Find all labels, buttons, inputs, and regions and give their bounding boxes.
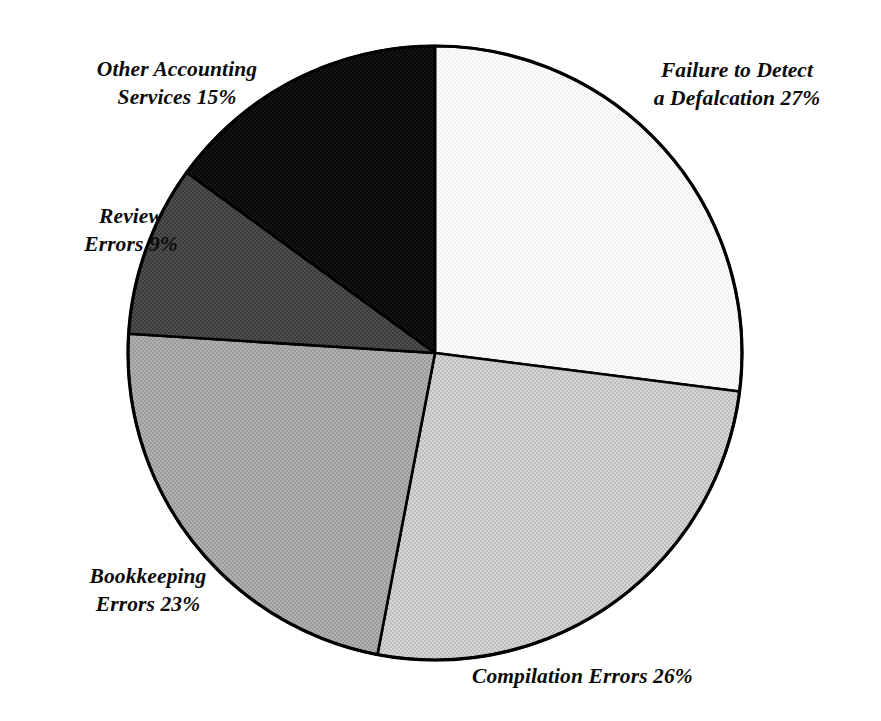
pie-chart: Failure to Detect a Defalcation 27% Othe… — [0, 0, 881, 721]
slice-label-compilation-errors: Compilation Errors 26% — [472, 663, 792, 691]
slice-label-failure-to-detect-a-defalcation: Failure to Detect a Defalcation 27% — [612, 57, 862, 112]
slice-label-bookkeeping-errors: Bookkeeping Errors 23% — [42, 563, 254, 618]
pie-slice-compilation-errors — [377, 353, 739, 660]
slice-label-other-accounting-services: Other Accounting Services 15% — [46, 56, 308, 111]
slice-label-review-errors: Review Errors 9% — [40, 203, 222, 258]
